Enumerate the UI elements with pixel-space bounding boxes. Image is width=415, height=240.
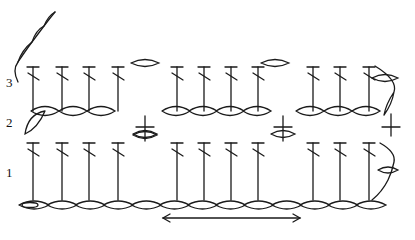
slip-knot: [22, 203, 38, 208]
row1-turning-chain-link: [378, 167, 398, 173]
row2-oval-0-2: [87, 107, 115, 116]
row-label-3: 3: [6, 76, 13, 89]
foundation-chain-link-8: [244, 201, 274, 209]
foundation-chain-link-1: [47, 201, 77, 209]
row3-chain-oval-1: [261, 60, 289, 67]
row-label-2: 2: [6, 116, 13, 129]
row2-oval-2-1: [324, 107, 352, 116]
foundation-chain-link-6: [187, 201, 217, 209]
foundation-chain-link-10: [300, 201, 330, 209]
row2-oval-1-3: [243, 107, 271, 116]
start-chain: [15, 12, 55, 82]
row2-oval-1-0: [162, 107, 190, 116]
foundation-chain-link-12: [356, 201, 386, 209]
row3-turning-chain-links: [375, 66, 395, 115]
foundation-chain-link-9: [272, 201, 302, 209]
foundation-chain-link-4: [131, 201, 161, 209]
foundation-chain-link-7: [216, 201, 246, 209]
row2-oval-0-1: [59, 107, 87, 116]
row2-oval-2-2: [352, 107, 380, 116]
foundation-chain-link-3: [103, 201, 133, 209]
foundation-chain-link-5: [159, 201, 189, 209]
row3-turning-chain: [372, 75, 398, 82]
foundation-chain-link-2: [75, 201, 105, 209]
stitch-diagram: [0, 0, 415, 240]
row2-oval-1-1: [189, 107, 217, 116]
row1-turning-chain: [372, 143, 394, 200]
row2-oval-2-0: [296, 107, 324, 116]
row2-turning-chain: [25, 111, 45, 134]
foundation-chain-link-11: [328, 201, 358, 209]
row-label-1: 1: [6, 166, 13, 179]
row3-chain-oval-0: [131, 60, 159, 67]
crochet-chart: 3 2 1: [0, 0, 415, 240]
row2-oval-1-2: [216, 107, 244, 116]
